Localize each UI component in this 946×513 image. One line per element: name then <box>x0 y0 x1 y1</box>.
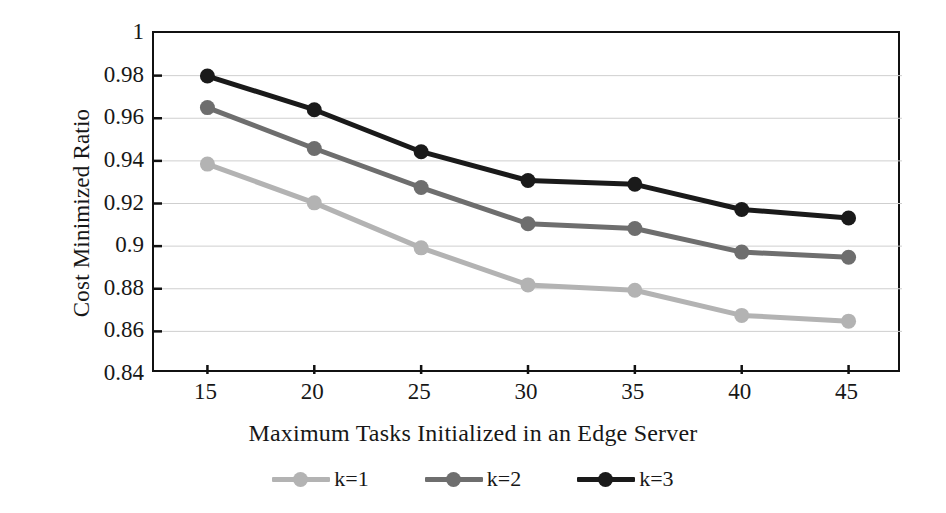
x-tick-label: 15 <box>170 380 240 403</box>
data-point <box>841 210 856 225</box>
line-chart: Cost Minimized Ratio 10.980.960.940.920.… <box>0 0 946 513</box>
data-point <box>414 180 429 195</box>
y-tick-label: 0.86 <box>52 318 144 341</box>
data-point <box>627 221 642 236</box>
data-point <box>307 195 322 210</box>
legend-item[interactable]: k=3 <box>577 468 673 490</box>
legend-swatch <box>425 470 483 488</box>
y-tick-label: 0.98 <box>52 63 144 86</box>
data-point <box>734 202 749 217</box>
legend-swatch <box>272 470 330 488</box>
data-point <box>414 240 429 255</box>
data-point <box>521 216 536 231</box>
legend-label: k=3 <box>637 468 673 490</box>
x-tick-label: 30 <box>491 380 561 403</box>
plot-area <box>152 31 900 372</box>
data-point <box>627 283 642 298</box>
data-point <box>307 102 322 117</box>
data-point <box>841 314 856 329</box>
data-point <box>841 250 856 265</box>
x-tick-label: 40 <box>705 380 775 403</box>
series-k-3 <box>200 69 856 226</box>
x-tick-label: 20 <box>277 380 347 403</box>
legend-marker-icon <box>598 472 613 487</box>
legend-label: k=2 <box>485 468 521 490</box>
data-point <box>734 308 749 323</box>
data-point <box>521 173 536 188</box>
x-axis-title: Maximum Tasks Initialized in an Edge Ser… <box>0 420 946 447</box>
y-tick-label: 0.84 <box>52 361 144 384</box>
x-axis-tick-labels: 15202530354045 <box>152 380 900 412</box>
data-point <box>200 69 215 84</box>
y-tick-label: 0.9 <box>52 233 144 256</box>
data-point <box>521 277 536 292</box>
data-point <box>627 177 642 192</box>
x-tick-label: 25 <box>384 380 454 403</box>
data-point <box>734 245 749 260</box>
x-tick-label: 45 <box>812 380 882 403</box>
data-point <box>200 157 215 172</box>
y-tick-label: 1 <box>52 20 144 43</box>
legend-swatch <box>577 470 635 488</box>
chart-legend: k=1k=2k=3 <box>0 462 946 496</box>
y-tick-label: 0.94 <box>52 148 144 171</box>
y-tick-label: 0.92 <box>52 191 144 214</box>
legend-marker-icon <box>446 472 461 487</box>
x-tick-label: 35 <box>598 380 668 403</box>
plot-canvas <box>154 33 902 374</box>
data-point <box>414 144 429 159</box>
legend-marker-icon <box>293 472 308 487</box>
data-point <box>307 141 322 156</box>
y-tick-label: 0.88 <box>52 276 144 299</box>
data-point <box>200 100 215 115</box>
legend-label: k=1 <box>332 468 368 490</box>
legend-item[interactable]: k=2 <box>425 468 521 490</box>
legend-item[interactable]: k=1 <box>272 468 368 490</box>
y-tick-label: 0.96 <box>52 105 144 128</box>
